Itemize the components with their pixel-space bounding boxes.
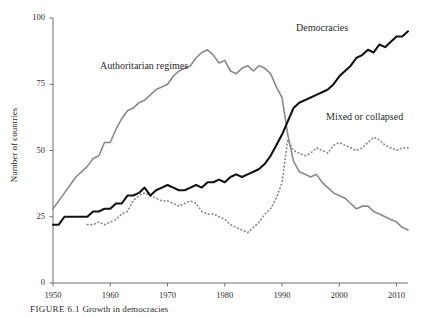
y-tick-label: 25 [21,211,45,221]
x-axis-ticks [53,283,397,287]
series-line-authoritarian-regimes [53,50,408,230]
figure-container: Number of countries 0255075100 195019601… [0,0,422,317]
figure-caption-text: Growth in democracies [82,304,168,314]
series-label-mixed-or-collapsed: Mixed or collapsed [326,111,403,122]
x-tick-label: 1950 [33,290,73,300]
axes-group [50,18,409,287]
x-tick-label: 1980 [205,290,245,300]
y-axis-title: Number of countries [9,85,19,205]
figure-caption: FIGURE 6.1 Growth in democracies [30,304,168,314]
series-line-mixed-or-collapsed [87,137,408,232]
figure-caption-number: FIGURE 6.1 [30,304,80,314]
y-tick-label: 50 [21,145,45,155]
chart-canvas [0,0,422,317]
x-tick-label: 2010 [377,290,417,300]
x-tick-label: 1990 [262,290,302,300]
y-tick-label: 0 [21,277,45,287]
x-tick-label: 1960 [90,290,130,300]
y-tick-label: 75 [21,78,45,88]
y-tick-label: 100 [21,12,45,22]
x-tick-label: 1970 [148,290,188,300]
series-label-democracies: Democracies [296,22,348,33]
series-label-authoritarian-regimes: Authoritarian regimes [100,60,188,71]
y-axis-ticks [50,18,54,283]
x-tick-label: 2000 [319,290,359,300]
